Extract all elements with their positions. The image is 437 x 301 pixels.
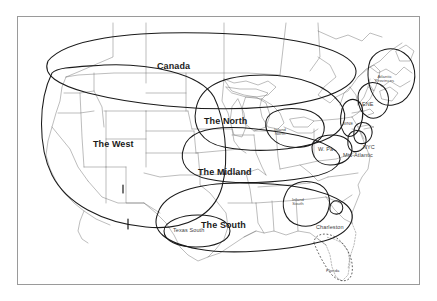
canada-hudson-shore (318, 31, 382, 41)
state-line-ok-tx (144, 173, 200, 177)
lake-erie-south (284, 127, 318, 133)
michigan-upper (226, 87, 268, 99)
us-canada-border (66, 73, 280, 77)
state-line-id-mt (94, 73, 104, 127)
florida-dialect-boundary (314, 234, 352, 281)
state-line-ok-ar (198, 153, 200, 175)
canada-maritime-1 (370, 67, 412, 75)
boundary-mid-atlantic (348, 130, 366, 151)
dialect-region-boundaries (42, 33, 415, 252)
boundary-atlantic-provinces (368, 49, 415, 105)
boundary-the-south (156, 183, 352, 252)
boundary-florida (314, 234, 352, 281)
canada-northern-edge (66, 23, 113, 77)
state-line-il-ky (246, 169, 266, 175)
florida-outline (318, 237, 350, 281)
state-line-ms-al (272, 201, 274, 231)
boundary-the-north (195, 75, 345, 150)
state-line-la-ms (256, 203, 264, 233)
state-line-border-sw (88, 181, 160, 213)
boundary-the-midland (182, 128, 340, 183)
state-line-ar-ms (246, 173, 252, 203)
base-map-outlines (46, 23, 414, 281)
state-line-md-de (348, 147, 364, 155)
state-line-ca-nv-az (52, 127, 88, 181)
state-line-al-ga (296, 199, 298, 231)
state-line-mn-wi (222, 79, 230, 121)
boundary-charleston (330, 201, 343, 214)
boundary-inland-north (266, 109, 325, 148)
newfoundland (396, 45, 414, 61)
lake-huron-erie (260, 99, 284, 129)
boundary-canada (47, 33, 356, 109)
canada-border-grid-4 (310, 23, 320, 71)
canada-border-grid-3 (280, 23, 286, 75)
map-frame: Canada The North The West The Midland Th… (17, 16, 420, 285)
state-line-tn-ms-al-ga (256, 197, 326, 203)
state-line-vt-nh (350, 87, 358, 105)
lake-ontario (290, 117, 314, 127)
pacific-coast (46, 77, 110, 225)
state-line-va-nc (328, 173, 358, 177)
maine-outline (358, 65, 380, 91)
state-line-in-oh (276, 133, 280, 169)
state-line-il-in (254, 135, 266, 175)
boundary-w-pa (312, 135, 352, 165)
state-line-nm-tx (126, 167, 144, 203)
dialect-map-figure: Canada The North The West The Midland Th… (0, 0, 437, 301)
map-graphic (18, 17, 420, 285)
baja-california (78, 211, 88, 243)
cape-cod (364, 109, 374, 115)
canada-maritime-2 (374, 79, 410, 87)
state-line-mo-ar (200, 173, 246, 175)
state-line-wv-va (300, 165, 328, 181)
state-line-mo-ia (196, 149, 240, 153)
state-line-or-ca (58, 111, 94, 113)
state-line-nv-ut (80, 93, 84, 167)
state-line-wa-or (64, 91, 94, 93)
state-line-ne-ia (188, 111, 192, 129)
